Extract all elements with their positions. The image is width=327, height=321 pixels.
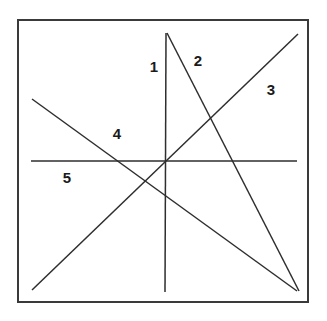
line-label-5: 5	[63, 169, 71, 186]
line-label-3: 3	[267, 81, 275, 98]
line-label-2: 2	[194, 52, 202, 69]
line-label-1: 1	[150, 58, 158, 75]
line-label-4: 4	[113, 125, 122, 142]
line-diagram: 1 2 3 4 5	[0, 0, 327, 321]
figure-root: 1 2 3 4 5	[0, 0, 327, 321]
